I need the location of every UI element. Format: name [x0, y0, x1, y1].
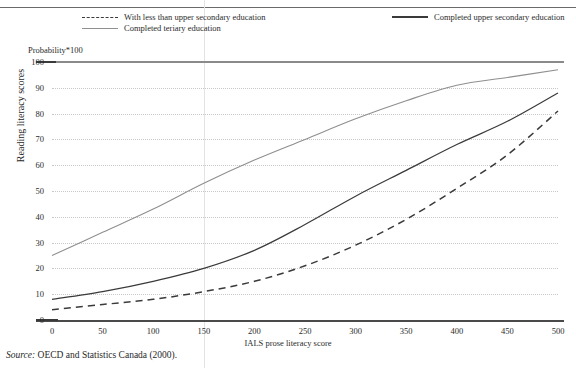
x-tick-label-350: 350	[386, 326, 426, 336]
source-text: OECD and Statistics Canada (2000).	[38, 350, 178, 360]
y-tick-label-50: 50	[22, 186, 44, 196]
top-divider-rule	[0, 7, 576, 8]
y-tick-label-20: 20	[22, 263, 44, 273]
source-note: Source: OECD and Statistics Canada (2000…	[6, 350, 177, 360]
legend-label-tertiary: Completed teriary education	[124, 23, 221, 33]
y-tick-label-0: 0	[22, 315, 44, 325]
solid-light-line-swatch-icon	[82, 28, 118, 29]
cropped-caption-ghost	[60, 0, 520, 6]
legend-label-less-than-upper-secondary: With less than upper secondary education	[124, 12, 266, 22]
chart-figure: With less than upper secondary education…	[0, 0, 576, 368]
chart-legend: With less than upper secondary education…	[0, 12, 576, 42]
x-tick-label-250: 250	[285, 326, 325, 336]
y-tick-label-30: 30	[22, 238, 44, 248]
legend-item-less-than-upper-secondary: With less than upper secondary education	[82, 12, 266, 22]
x-axis-title: IALS prose literacy score	[0, 338, 576, 348]
source-prefix: Source:	[6, 350, 35, 360]
x-tick-label-150: 150	[184, 326, 224, 336]
x-tick-label-200: 200	[234, 326, 274, 336]
probability-axis-note: Probability*100	[28, 45, 83, 55]
solid-dark-line-swatch-icon	[392, 16, 428, 17]
legend-item-upper-secondary: Completed upper secondary education	[392, 12, 565, 22]
x-tick-label-450: 450	[487, 326, 527, 336]
x-tick-label-300: 300	[336, 326, 376, 336]
x-tick-label-50: 50	[83, 326, 123, 336]
legend-label-upper-secondary: Completed upper secondary education	[434, 12, 565, 22]
line-tertiary	[52, 70, 558, 256]
series-lines-group	[52, 62, 558, 320]
legend-item-tertiary: Completed teriary education	[82, 23, 221, 33]
x-tick-label-400: 400	[437, 326, 477, 336]
line-upper-secondary	[52, 93, 558, 299]
x-tick-label-0: 0	[32, 326, 72, 336]
y-axis-title: Reading literacy scores	[15, 46, 26, 186]
line-less-than-upper-secondary	[52, 111, 558, 310]
dashed-line-swatch-icon	[82, 17, 118, 18]
x-axis-line	[36, 320, 564, 322]
plot-area	[52, 62, 558, 320]
x-tick-label-100: 100	[133, 326, 173, 336]
y-tick-label-40: 40	[22, 212, 44, 222]
y-tick-label-10: 10	[22, 289, 44, 299]
x-tick-label-500: 500	[538, 326, 576, 336]
